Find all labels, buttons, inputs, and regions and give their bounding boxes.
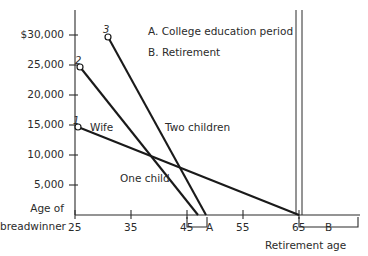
x-axis-title-line1: Age of [0, 203, 64, 214]
series-label-two-children: Two children [165, 122, 230, 133]
y-tick-label-30000: $30,000 [0, 29, 64, 40]
x-tick-label-65: 65 [292, 222, 305, 233]
y-tick-label-10000: 10,000 [0, 149, 64, 160]
point-number-3: 3 [103, 25, 109, 35]
x-tick-label-35: 35 [124, 222, 137, 233]
y-tick-label-15000: 15,000 [0, 119, 64, 130]
y-tick-label-20000: 20,000 [0, 89, 64, 100]
series-label-wife: Wife [90, 122, 113, 133]
bracket-label-a: A [206, 222, 213, 233]
legend-item-b: B. Retirement [148, 47, 220, 58]
legend-item-a: A. College education period [148, 26, 293, 37]
series-label-one-child: One child [120, 173, 170, 184]
x-axis-title-line2: breadwinner [0, 221, 64, 232]
x-tick-label-45: 45 [180, 222, 193, 233]
x-axis-title-right: Retirement age [265, 240, 346, 251]
point-number-2: 2 [75, 56, 81, 66]
chart-figure: $30,000 25,000 20,000 15,000 10,000 5,00… [0, 0, 368, 256]
y-tick-label-25000: 25,000 [0, 59, 64, 70]
x-tick-label-25: 25 [68, 222, 81, 233]
point-number-1: 1 [73, 116, 79, 126]
y-tick-label-5000: 5,000 [0, 179, 64, 190]
bracket-label-b: B [325, 222, 332, 233]
retirement-marker-lines [296, 10, 302, 215]
x-tick-label-55: 55 [236, 222, 249, 233]
series-line-one-child [80, 67, 198, 215]
